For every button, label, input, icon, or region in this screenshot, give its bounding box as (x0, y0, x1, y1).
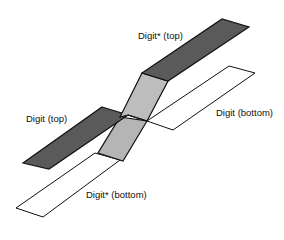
label-digit-top: Digit (top) (26, 114, 67, 124)
label-digit-star-bottom: Digit* (bottom) (86, 190, 147, 200)
label-digit-bottom: Digit (bottom) (216, 108, 273, 118)
label-digit-star-top: Digit* (top) (138, 31, 183, 41)
